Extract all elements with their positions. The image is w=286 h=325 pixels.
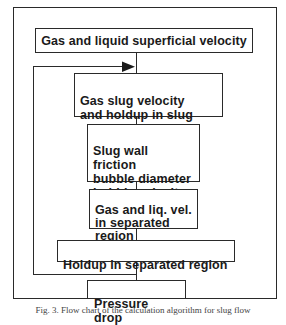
node-separated-region-velocity: Gas and liq. vel. in separated region	[89, 189, 198, 229]
node-label: Gas slug velocity and holdup in slug	[80, 94, 193, 122]
node-pressure-drop: Pressure drop	[87, 280, 186, 299]
node-holdup-separated-region: Holdup in separated region	[57, 240, 235, 262]
node-label: Holdup in separated region	[63, 258, 227, 272]
node-label: Gas and liquid superficial velocity	[41, 34, 247, 48]
node-slug-wall-friction: Slug wall friction bubble diameter bubbl…	[87, 124, 200, 182]
figure-caption: Fig. 3. Flow chart of the calculation al…	[0, 305, 286, 315]
node-superficial-velocity: Gas and liquid superficial velocity	[35, 28, 253, 53]
node-gas-slug-velocity: Gas slug velocity and holdup in slug	[74, 73, 223, 117]
